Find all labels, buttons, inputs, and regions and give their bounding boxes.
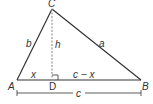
side-label-b: b (26, 38, 32, 49)
side-a (52, 9, 141, 80)
side-label-h: h (55, 39, 61, 50)
segment-label-c-minus-x: c − x (73, 69, 95, 80)
triangle-diagram: C A B D b h a x c − x c (0, 0, 153, 104)
vertex-label-c: C (48, 0, 56, 9)
point-label-d: D (49, 81, 56, 92)
side-label-a: a (99, 38, 105, 49)
segment-label-x: x (30, 69, 37, 80)
dimension-label-c: c (76, 88, 81, 99)
right-angle-marker (52, 75, 58, 80)
vertex-label-b: B (142, 81, 149, 92)
vertex-label-a: A (7, 81, 15, 92)
